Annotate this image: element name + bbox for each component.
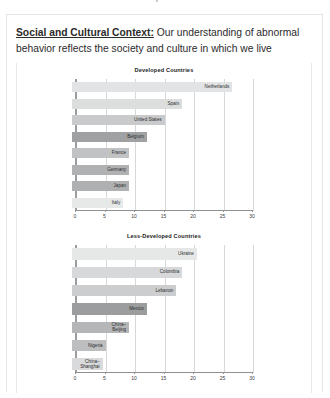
x-tick-mark [134, 210, 135, 212]
bar-row: Netherlands [76, 82, 253, 92]
lead-paragraph: Social and Cultural Context: Our underst… [16, 25, 310, 57]
x-tick-mark [252, 210, 253, 212]
x-tick-label: 0 [74, 375, 77, 381]
bar-row: Ukraine [76, 248, 253, 259]
bar: Lebanon [72, 285, 176, 296]
x-tick-mark [75, 372, 76, 374]
x-tick-mark [164, 210, 165, 212]
bar-category-label: Belgium [127, 134, 144, 139]
bar-row: Belgium [76, 132, 253, 142]
bar: Mexico [72, 303, 147, 314]
chart-less-developed-countries: Less-Developed Countries UkraineColombia… [16, 229, 312, 393]
bar-series: NetherlandsSpainUnited StatesBelgiumFran… [76, 79, 253, 211]
x-tick-label: 30 [249, 213, 255, 219]
chart-title: Less-Developed Countries [16, 233, 312, 239]
x-tick-mark [105, 372, 106, 374]
bar-row: Italy [76, 198, 253, 208]
bar: China–Shanghai [72, 358, 103, 369]
x-tick-label: 0 [74, 213, 77, 219]
bar: Netherlands [72, 82, 232, 92]
x-tick-mark [193, 372, 194, 374]
gridline [253, 245, 254, 373]
plot-area: UkraineColombiaLebanonMexicoChina–Beijin… [75, 245, 253, 373]
bar-series: UkraineColombiaLebanonMexicoChina–Beijin… [76, 245, 253, 373]
x-axis-ticks: 051015202530 [75, 213, 252, 223]
x-tick-mark [223, 372, 224, 374]
bar: China–Beijing [72, 322, 129, 333]
x-axis-ticks: 051015202530 [75, 375, 252, 385]
lead-term: Social and Cultural Context: [16, 27, 154, 38]
bar: Japan [72, 181, 129, 191]
x-tick-label: 30 [249, 375, 255, 381]
x-tick-label: 10 [131, 213, 137, 219]
content-card: Social and Cultural Context: Our underst… [6, 14, 323, 392]
x-tick-label: 15 [161, 213, 167, 219]
x-tick-label: 25 [220, 375, 226, 381]
bar-category-label: Spain [167, 101, 179, 106]
bar: Nigeria [72, 340, 106, 351]
x-tick-mark [223, 210, 224, 212]
bar-row: China–Shanghai [76, 358, 253, 369]
bar-row: Spain [76, 99, 253, 109]
bar: Ukraine [72, 248, 197, 259]
bar-row: France [76, 148, 253, 158]
bar-row: China–Beijing [76, 322, 253, 333]
bar-row: Nigeria [76, 340, 253, 351]
x-tick-label: 5 [103, 213, 106, 219]
bar-category-label: Colombia [160, 270, 179, 275]
bar-category-label: Japan [114, 184, 127, 189]
plot-area: NetherlandsSpainUnited StatesBelgiumFran… [75, 79, 253, 211]
bar: Belgium [72, 132, 147, 142]
chart-developed-countries: Developed Countries NetherlandsSpainUnit… [16, 63, 312, 231]
bar: Italy [72, 198, 123, 208]
x-tick-label: 10 [131, 375, 137, 381]
x-tick-label: 20 [190, 375, 196, 381]
bar-category-label: Mexico [129, 306, 144, 311]
bar-category-label: China–Shanghai [78, 359, 100, 369]
bar-category-label: Netherlands [205, 85, 230, 90]
bar: Spain [72, 99, 182, 109]
bar-category-label: Lebanon [155, 288, 173, 293]
bar-category-label: United States [134, 118, 162, 123]
x-tick-mark [164, 372, 165, 374]
x-tick-mark [252, 372, 253, 374]
x-tick-label: 15 [161, 375, 167, 381]
bar: Germany [72, 165, 129, 175]
bar-row: Lebanon [76, 285, 253, 296]
chart-title: Developed Countries [16, 67, 312, 73]
gridline [253, 79, 254, 211]
cut-off-heading: Perspectives [0, 0, 330, 13]
bar-row: Colombia [76, 267, 253, 278]
bar-category-label: China–Beijing [104, 322, 126, 332]
bar-category-label: Italy [112, 200, 120, 205]
bar: United States [72, 115, 165, 125]
bar-row: Germany [76, 165, 253, 175]
x-tick-mark [193, 210, 194, 212]
bar-row: United States [76, 115, 253, 125]
x-tick-label: 20 [190, 213, 196, 219]
cut-off-heading-text: Perspectives [0, 0, 330, 2]
bar-category-label: France [112, 151, 126, 156]
x-tick-mark [75, 210, 76, 212]
bar: Colombia [72, 267, 182, 278]
x-tick-label: 25 [220, 213, 226, 219]
bar-category-label: Ukraine [178, 252, 194, 257]
bar: France [72, 148, 129, 158]
bar-row: Mexico [76, 303, 253, 314]
bar-category-label: Nigeria [88, 343, 103, 348]
page-canvas: Perspectives Social and Cultural Context… [0, 0, 330, 398]
x-tick-mark [134, 372, 135, 374]
bar-row: Japan [76, 181, 253, 191]
x-tick-label: 5 [103, 375, 106, 381]
x-tick-mark [105, 210, 106, 212]
bar-category-label: Germany [107, 167, 126, 172]
